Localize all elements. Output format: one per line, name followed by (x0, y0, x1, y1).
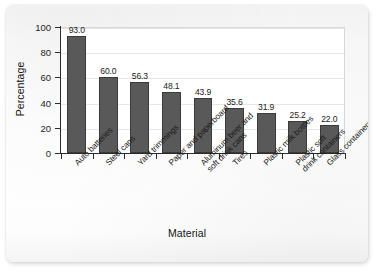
bar-value-label: 56.3 (132, 71, 148, 81)
bar-value-label: 48.1 (163, 81, 179, 91)
screenshot-root: 93.060.056.348.143.935.631.925.222.00204… (0, 0, 381, 276)
y-axis-tick (55, 103, 60, 104)
y-axis-tick-label: 40 (6, 97, 51, 108)
y-axis-tick-label: 60 (6, 72, 51, 83)
x-axis-tick (124, 153, 125, 159)
y-axis-tick-label: 0 (6, 148, 51, 159)
y-axis-tick (55, 128, 60, 129)
x-axis-title: Material (6, 227, 368, 239)
x-axis-tick (250, 153, 251, 159)
x-axis-tick (187, 153, 188, 159)
gridline (61, 53, 344, 54)
gridline (61, 28, 344, 29)
y-axis-tick-label: 100 (6, 22, 51, 33)
y-axis-title: Percentage (14, 44, 26, 134)
chart-card: 93.060.056.348.143.935.631.925.222.00204… (6, 5, 368, 262)
bar-value-label: 60.0 (100, 66, 116, 76)
bar (67, 36, 86, 153)
y-axis-line (60, 26, 61, 154)
y-axis-tick (55, 52, 60, 53)
bar-value-label: 31.9 (258, 102, 274, 112)
y-axis-tick (55, 153, 60, 154)
bar-value-label: 93.0 (69, 25, 85, 35)
y-axis-tick-label: 20 (6, 122, 51, 133)
y-axis-tick (55, 27, 60, 28)
x-axis-tick (345, 153, 346, 159)
bar-value-label: 35.6 (226, 97, 242, 107)
chart-card-surface: 93.060.056.348.143.935.631.925.222.00204… (6, 5, 368, 262)
x-axis-tick (61, 153, 62, 159)
y-axis-tick-label: 80 (6, 47, 51, 58)
bar-value-label: 43.9 (195, 87, 211, 97)
y-axis-tick (55, 77, 60, 78)
